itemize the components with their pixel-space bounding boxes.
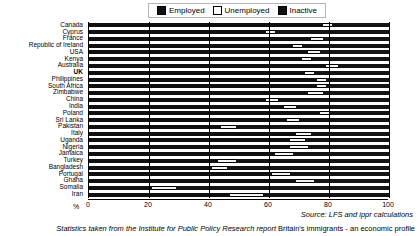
x-axis-unit-label: %	[73, 203, 79, 210]
bar-row	[89, 78, 389, 82]
bar-rows	[89, 22, 389, 198]
bar-segment-employed	[89, 179, 296, 183]
bar-row	[89, 50, 389, 54]
bar-segment-inactive	[314, 71, 389, 75]
bar-segment-inactive	[311, 132, 389, 136]
bar-segment-unemployed	[266, 98, 278, 102]
bar-segment-inactive	[263, 193, 389, 197]
bar-row	[89, 84, 389, 88]
bar-segment-employed	[89, 91, 308, 95]
bar-segment-unemployed	[152, 186, 176, 190]
bar-segment-inactive	[227, 166, 389, 170]
bar-row	[89, 98, 389, 102]
bar-row	[89, 125, 389, 129]
legend-entry-inactive: Inactive	[278, 6, 318, 15]
x-tick-label: 100	[382, 201, 394, 208]
bar-row	[89, 179, 389, 183]
bar-segment-employed	[89, 159, 218, 163]
bar-segment-unemployed	[212, 166, 227, 170]
bar-segment-unemployed	[326, 64, 338, 68]
bar-segment-employed	[89, 138, 290, 142]
bar-segment-unemployed	[266, 30, 275, 34]
bar-segment-inactive	[323, 37, 389, 41]
bar-segment-unemployed	[290, 138, 305, 142]
bar-segment-inactive	[326, 78, 389, 82]
bar-segment-inactive	[320, 50, 389, 54]
x-tick-label: 80	[324, 201, 332, 208]
bar-segment-employed	[89, 105, 284, 109]
bar-segment-employed	[89, 118, 287, 122]
x-tick-label: 60	[264, 201, 272, 208]
bar-row	[89, 159, 389, 163]
bar-row	[89, 132, 389, 136]
bar-row	[89, 111, 389, 115]
chart-area	[0, 21, 419, 199]
bar-segment-inactive	[305, 138, 389, 142]
bar-segment-unemployed	[272, 172, 290, 176]
bar-segment-unemployed	[308, 91, 323, 95]
bar-row	[89, 71, 389, 75]
bar-row	[89, 91, 389, 95]
bar-segment-unemployed	[308, 50, 320, 54]
bar-segment-inactive	[290, 172, 389, 176]
bar-segment-employed	[89, 186, 152, 190]
bar-segment-employed	[89, 23, 323, 27]
bar-row	[89, 37, 389, 41]
legend-swatch-unemployed	[213, 6, 222, 15]
figure-caption: Statistics taken from the Institute for …	[0, 224, 415, 233]
bar-segment-employed	[89, 125, 221, 129]
bar-segment-unemployed	[293, 44, 302, 48]
bar-segment-unemployed	[302, 57, 311, 61]
bar-segment-employed	[89, 152, 275, 156]
gridline-60	[269, 22, 270, 198]
bar-row	[89, 166, 389, 170]
bar-segment-inactive	[323, 91, 389, 95]
chart-legend: Employed Unemployed Inactive	[148, 3, 326, 18]
bar-segment-employed	[89, 30, 266, 34]
bar-segment-employed	[89, 71, 305, 75]
bar-row	[89, 152, 389, 156]
bar-segment-inactive	[278, 98, 389, 102]
bar-segment-inactive	[329, 111, 389, 115]
legend-label-employed: Employed	[169, 6, 205, 15]
bar-segment-inactive	[236, 125, 389, 129]
bar-segment-inactive	[176, 186, 389, 190]
x-tick-label: 40	[204, 201, 212, 208]
bar-segment-employed	[89, 57, 302, 61]
bar-segment-inactive	[311, 57, 389, 61]
legend-swatch-employed	[157, 6, 166, 15]
bar-row	[89, 44, 389, 48]
bar-segment-unemployed	[275, 152, 293, 156]
caption-report-title: Britain's immigrants - an economic profi…	[278, 224, 415, 233]
legend-label-unemployed: Unemployed	[225, 6, 270, 15]
bar-segment-employed	[89, 172, 272, 176]
plot-area	[88, 22, 389, 198]
source-note: Source: LFS and ippr calculations	[301, 210, 413, 219]
bar-segment-unemployed	[320, 111, 329, 115]
bar-segment-inactive	[314, 179, 389, 183]
bar-segment-inactive	[326, 84, 389, 88]
bar-segment-inactive	[236, 159, 389, 163]
legend-entry-unemployed: Unemployed	[213, 6, 270, 15]
bar-segment-employed	[89, 98, 266, 102]
x-tick-label: 0	[86, 201, 90, 208]
legend-label-inactive: Inactive	[290, 6, 318, 15]
bar-row	[89, 172, 389, 176]
legend-swatch-inactive	[278, 6, 287, 15]
bar-segment-unemployed	[218, 159, 236, 163]
bar-segment-employed	[89, 132, 296, 136]
bar-segment-inactive	[308, 145, 389, 149]
bar-segment-unemployed	[323, 23, 332, 27]
bar-row	[89, 138, 389, 142]
x-axis-line	[88, 199, 388, 200]
x-tick-label: 20	[144, 201, 152, 208]
bar-row	[89, 186, 389, 190]
caption-prefix: Statistics taken from the Institute for …	[56, 224, 278, 233]
bar-segment-employed	[89, 64, 326, 68]
gridline-20	[149, 22, 150, 198]
gridline-100	[389, 22, 390, 198]
legend-entry-employed: Employed	[157, 6, 205, 15]
bar-row	[89, 57, 389, 61]
bar-segment-unemployed	[317, 84, 326, 88]
bar-row	[89, 118, 389, 122]
